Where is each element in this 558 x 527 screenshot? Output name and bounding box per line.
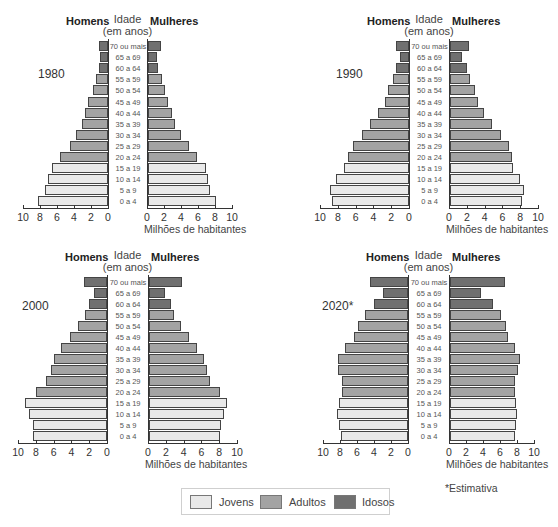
age-label: 60 a 64 [410,64,449,73]
tick-label-homens: 10 [310,211,330,223]
age-label: 55 a 59 [108,311,148,320]
bar-homens [36,387,107,397]
age-label: 40 a 44 [108,344,148,353]
bar-homens [337,409,408,419]
bar-homens [94,288,107,298]
bar-mulheres [149,409,224,419]
tick-label-homens: 4 [61,446,81,458]
year-label: 2020* [322,299,353,313]
tick-label-homens: 6 [44,446,64,458]
bar-homens [29,409,107,419]
x-axis-mulheres [449,443,535,444]
tick-mulheres [534,440,535,444]
bar-homens [385,97,409,107]
tick-mulheres [166,440,167,444]
age-label: 30 a 34 [410,131,449,140]
bar-mulheres [450,63,467,73]
age-label: 0 a 4 [108,432,148,441]
bar-mulheres [149,343,197,353]
legend-swatch-adultos [260,495,282,509]
tick-label-homens: 8 [330,446,350,458]
bar-homens [393,74,409,84]
header-mulheres: Mulheres [151,251,199,263]
age-label: 10 a 14 [409,410,449,419]
age-label: 30 a 34 [108,366,148,375]
tick-label-mulheres: 10 [524,446,544,458]
age-label: 50 a 54 [410,86,449,95]
bar-mulheres [149,332,189,342]
tick-mulheres [449,440,450,444]
age-label: 5 a 9 [409,421,449,430]
bar-homens [51,365,107,375]
bar-mulheres [450,174,520,184]
bar-mulheres [149,431,220,441]
tick-label-homens: 2 [381,211,401,223]
bar-homens [89,299,107,309]
x-axis-mulheres [449,208,539,209]
bar-homens [46,376,107,386]
age-label: 65 a 69 [409,289,449,298]
bar-homens [388,85,409,95]
age-label: 45 a 49 [108,333,148,342]
age-label: 60 a 64 [409,300,449,309]
age-label: 25 a 29 [410,142,449,151]
bar-mulheres [450,332,508,342]
tick-label-homens: 0 [398,446,418,458]
bar-homens [78,321,107,331]
x-axis-homens [323,443,409,444]
tick-mulheres [467,205,468,209]
tick-homens [356,205,357,209]
header-idade: Idade [403,13,455,25]
header-em-anos: (em anos) [402,261,455,273]
bar-mulheres [450,130,501,140]
bar-homens [25,398,107,408]
estimate-footnote: *Estimativa [445,482,498,494]
tick-homens [409,205,410,209]
bar-mulheres [450,398,516,408]
age-label: 65 a 69 [410,53,449,62]
age-label: 70 ou mais [108,278,148,287]
bar-homens [374,299,408,309]
tick-label-homens: 0 [97,446,117,458]
bar-mulheres [149,299,171,309]
bar-homens [342,376,408,386]
age-label: 5 a 9 [108,421,148,430]
age-label: 35 a 39 [409,355,449,364]
bar-homens [84,277,107,287]
year-label: 2000 [22,299,49,313]
tick-label-mulheres: 10 [227,446,247,458]
year-label: 1990 [336,67,363,81]
bar-homens [339,420,408,430]
bar-mulheres [450,152,512,162]
tick-homens [36,440,37,444]
age-label: 5 a 9 [410,186,449,195]
age-label: 25 a 29 [108,377,148,386]
bar-homens [54,354,107,364]
tick-mulheres [485,205,486,209]
tick-mulheres [502,205,503,209]
tick-mulheres [483,440,484,444]
bar-mulheres [450,387,515,397]
tick-label-homens: 10 [313,446,333,458]
age-label: 60 a 64 [108,300,148,309]
bar-homens [70,332,107,342]
bar-mulheres [149,277,182,287]
bar-homens [332,196,409,206]
bar-mulheres [450,108,484,118]
age-label: 15 a 19 [410,164,449,173]
age-label: 25 a 29 [409,377,449,386]
bar-homens [358,321,408,331]
bar-mulheres [450,163,513,173]
legend: Jovens Adultos Idosos [181,488,390,515]
bar-mulheres [149,321,181,331]
header-mulheres: Mulheres [452,251,500,263]
tick-homens [340,440,341,444]
header-mulheres: Mulheres [452,15,500,27]
header-idade: Idade [402,249,455,261]
tick-mulheres [520,205,521,209]
tick-homens [373,205,374,209]
bar-mulheres [149,420,221,430]
bar-mulheres [450,74,470,84]
age-label: 35 a 39 [410,120,449,129]
bar-mulheres [450,310,501,320]
